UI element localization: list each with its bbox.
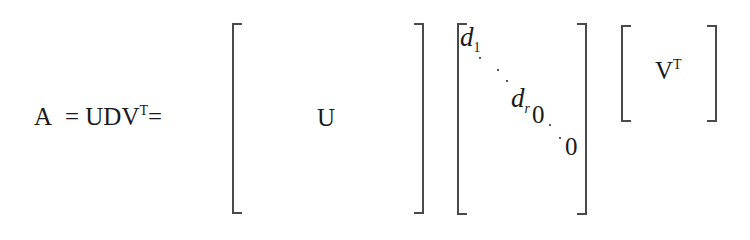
udvt-product: UDV <box>85 103 139 130</box>
d1-symbol: d <box>460 22 474 52</box>
d-right-bracket <box>577 23 587 215</box>
equation-lhs: A = UDVT= <box>34 103 162 131</box>
d1-entry: d1 <box>460 22 481 53</box>
equals-sign: = <box>65 103 79 130</box>
diagonal-dot <box>479 57 481 59</box>
diagonal-dot <box>506 80 508 82</box>
matrix-a-symbol: A <box>34 103 51 130</box>
dr-symbol: d <box>511 83 525 113</box>
zero-entry-1: 0 <box>532 101 545 129</box>
dr-entry: dr <box>511 83 530 114</box>
zero-entry-2: 0 <box>565 133 578 161</box>
vt-matrix-label: VT <box>655 57 682 85</box>
d1-subscript: 1 <box>474 40 481 55</box>
vt-right-bracket <box>707 25 717 122</box>
diagonal-dot <box>497 69 499 71</box>
dr-subscript: r <box>525 101 530 116</box>
vt-left-bracket <box>621 25 631 122</box>
u-left-bracket <box>232 23 242 214</box>
diagonal-dot <box>559 137 561 139</box>
transpose-superscript: T <box>139 103 148 118</box>
u-matrix-label: U <box>317 104 335 132</box>
vt-transpose-superscript: T <box>673 57 682 72</box>
diagonal-dot <box>549 124 551 126</box>
u-right-bracket <box>414 23 424 214</box>
equals-sign-2: = <box>148 103 162 130</box>
v-symbol: V <box>655 57 673 84</box>
